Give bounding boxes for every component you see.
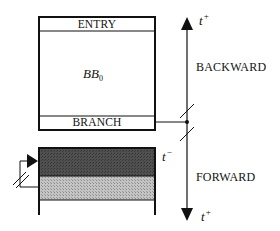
time-bottom-sup: + — [206, 207, 211, 217]
feedback-loop-arrow — [13, 154, 38, 188]
time-top-sup: + — [204, 11, 209, 21]
dark-band — [39, 148, 155, 176]
block-name-subscript: 0 — [99, 74, 103, 83]
branch-label: BRANCH — [39, 117, 155, 129]
t-minus-label: t− — [162, 150, 172, 163]
time-top-var: t — [199, 13, 203, 28]
time-bottom-var: t — [201, 209, 205, 224]
diagram-canvas — [0, 0, 280, 231]
break-mark — [16, 175, 29, 188]
block-name: BB0 — [83, 67, 103, 80]
forward-label: FORWARD — [196, 171, 255, 183]
t-minus-var: t — [162, 149, 166, 164]
entry-label: ENTRY — [39, 19, 155, 31]
time-bottom-label: t+ — [201, 210, 211, 223]
arrow-down-icon — [181, 208, 193, 221]
backward-label: BACKWARD — [196, 61, 266, 73]
t-minus-sup: − — [167, 147, 172, 157]
hatched-band — [39, 176, 155, 200]
time-axis — [180, 17, 194, 221]
time-top-label: t+ — [199, 14, 209, 27]
arrow-up-icon — [181, 17, 193, 30]
successor-block — [39, 147, 155, 215]
block-name-main: BB — [83, 66, 99, 81]
